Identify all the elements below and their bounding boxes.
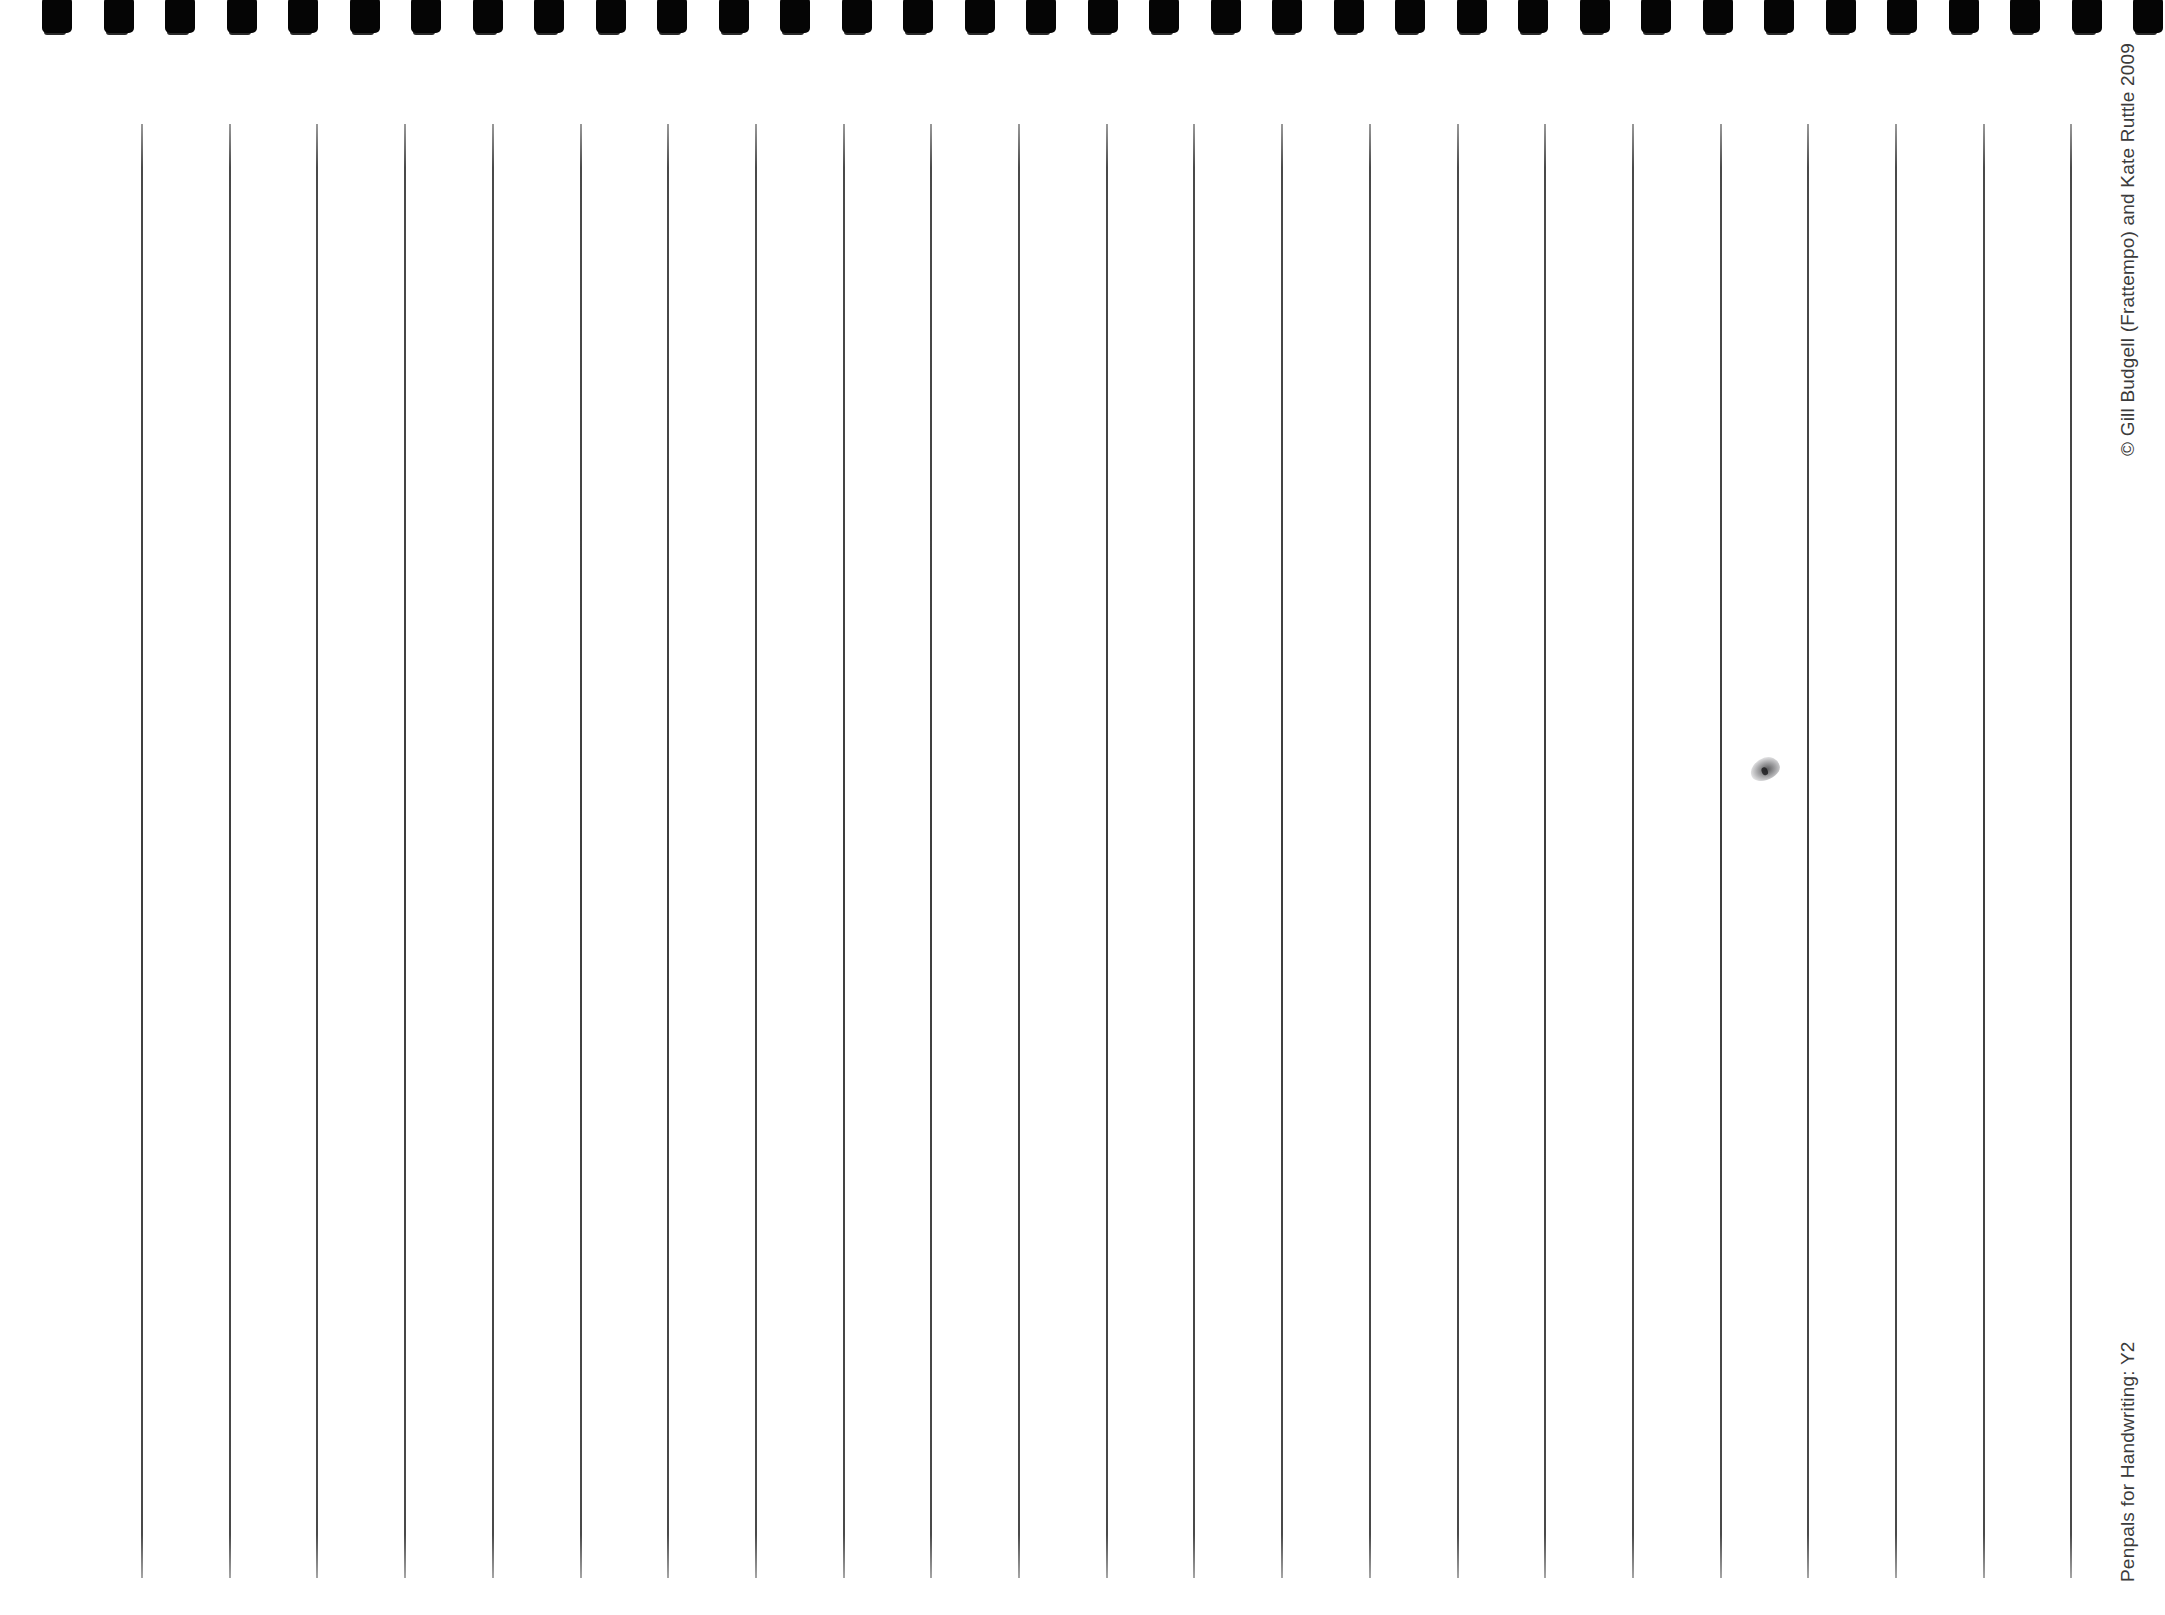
vertical-guide-line — [141, 124, 143, 1578]
vertical-guide-line — [1106, 124, 1108, 1578]
vertical-guide-line — [316, 124, 318, 1578]
handwriting-practice-page: © Gill Budgell (Frattempo) and Kate Rutt… — [0, 0, 2165, 1615]
vertical-guide-line — [1193, 124, 1195, 1578]
vertical-guide-line — [580, 124, 582, 1578]
series-title-label: Penpals for Handwriting: Y2 — [2117, 1341, 2139, 1582]
ruled-guide-line-layer — [0, 0, 2165, 1615]
vertical-guide-line — [1983, 124, 1985, 1578]
vertical-guide-line — [843, 124, 845, 1578]
vertical-guide-line — [667, 124, 669, 1578]
vertical-guide-line — [229, 124, 231, 1578]
vertical-guide-line — [755, 124, 757, 1578]
copyright-notice: © Gill Budgell (Frattempo) and Kate Rutt… — [2117, 43, 2139, 456]
vertical-guide-line — [1632, 124, 1634, 1578]
vertical-guide-line — [404, 124, 406, 1578]
vertical-guide-line — [1018, 124, 1020, 1578]
vertical-guide-line — [1369, 124, 1371, 1578]
vertical-guide-line — [1895, 124, 1897, 1578]
vertical-guide-line — [1457, 124, 1459, 1578]
vertical-guide-line — [1281, 124, 1283, 1578]
vertical-guide-line — [2070, 124, 2072, 1578]
vertical-guide-line — [1720, 124, 1722, 1578]
vertical-guide-line — [1544, 124, 1546, 1578]
vertical-guide-line — [930, 124, 932, 1578]
vertical-guide-line — [1807, 124, 1809, 1578]
vertical-guide-line — [492, 124, 494, 1578]
